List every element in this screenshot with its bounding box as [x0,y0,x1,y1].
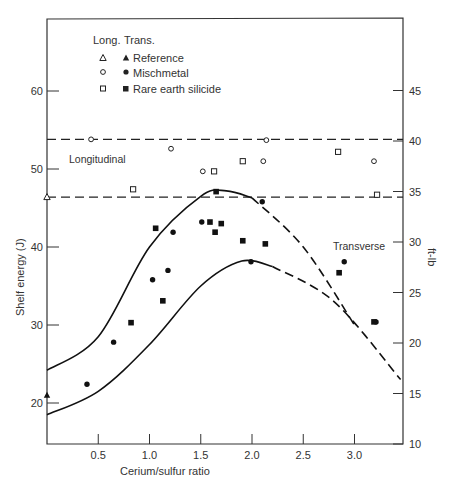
y-right-tick-label: 10 [409,438,421,450]
open-circle-marker [89,137,94,142]
filled-square-marker [160,298,166,304]
legend-header-long: Long. [93,34,121,46]
lower-band-curve [47,260,273,414]
filled-triangle-icon [123,55,129,61]
y-tick-label: 50 [31,163,43,175]
open-circle-marker [200,169,205,174]
open-square-marker [336,149,341,154]
chart: 0.51.01.52.02.53.02030405060101520253035… [0,0,456,487]
filled-circle-marker [170,229,175,234]
filled-circle-marker [342,259,347,264]
filled-square-marker [207,219,213,225]
filled-square-marker [212,229,218,235]
open-circle-marker [261,159,266,164]
open-square-marker [374,192,379,197]
y-right-tick-label: 35 [409,186,421,198]
open-circle-marker [372,159,377,164]
filled-circle-marker [165,268,170,273]
y-tick-label: 40 [31,241,43,253]
plot-frame [47,18,403,444]
y-right-tick-label: 25 [409,287,421,299]
open-square-marker [131,187,136,192]
filled-circle-marker [150,277,155,282]
y-right-tick-label: 30 [409,236,421,248]
y-tick-label: 60 [31,85,43,97]
filled-circle-marker [248,259,253,264]
annotation-longitudinal: Longitudinal [69,153,126,165]
y-axis-right-label: ft-lb [426,248,438,266]
upper-band-curve [47,190,252,370]
filled-circle-marker [260,199,265,204]
y-tick-label: 30 [31,319,43,331]
filled-triangle-marker [44,392,50,398]
x-axis-label: Cerium/sulfur ratio [120,465,210,477]
filled-square-marker [153,225,159,231]
filled-circle-marker [84,382,89,387]
x-tick-label: 1.0 [142,449,157,461]
open-square-marker [240,159,245,164]
open-square-icon [101,86,106,91]
y-right-tick-label: 45 [409,85,421,97]
legend: Long. Trans. Reference Mischmetal Rare e… [93,34,221,95]
reference-lines [47,139,403,197]
filled-square-marker [263,241,269,247]
filled-square-marker [240,238,246,244]
filled-square-marker [218,221,224,227]
y-axis-label: Shelf energy (J) [14,238,26,316]
filled-square-marker [128,320,134,326]
lower-band-curve-dashed [273,267,401,380]
legend-header-trans: Trans. [124,34,155,46]
legend-entry-reference: Reference [133,52,184,64]
annotation-transverse: Transverse [333,240,385,252]
y-right-tick-label: 20 [409,337,421,349]
y-right-tick-label: 40 [409,135,421,147]
y-tick-label: 20 [31,397,43,409]
x-tick-label: 0.5 [91,449,106,461]
filled-square-icon [123,86,129,92]
filled-square-marker [371,319,377,325]
open-square-marker [211,169,216,174]
y-right-tick-label: 15 [409,388,421,400]
open-triangle-icon [100,55,106,61]
filled-circle-marker [199,219,204,224]
open-circle-icon [101,70,106,75]
filled-square-marker [336,270,342,276]
legend-entry-mischmetal: Mischmetal [133,67,189,79]
x-tick-label: 2.5 [296,449,311,461]
open-circle-marker [169,146,174,151]
filled-square-marker [213,189,219,195]
x-tick-label: 1.5 [193,449,208,461]
filled-circle-icon [123,69,128,74]
legend-entry-rare-earth-silicide: Rare earth silicide [133,83,221,95]
x-tick-label: 3.0 [347,449,362,461]
data-points [44,137,380,398]
x-tick-label: 2.0 [244,449,259,461]
open-circle-marker [264,138,269,143]
filled-circle-marker [111,339,116,344]
